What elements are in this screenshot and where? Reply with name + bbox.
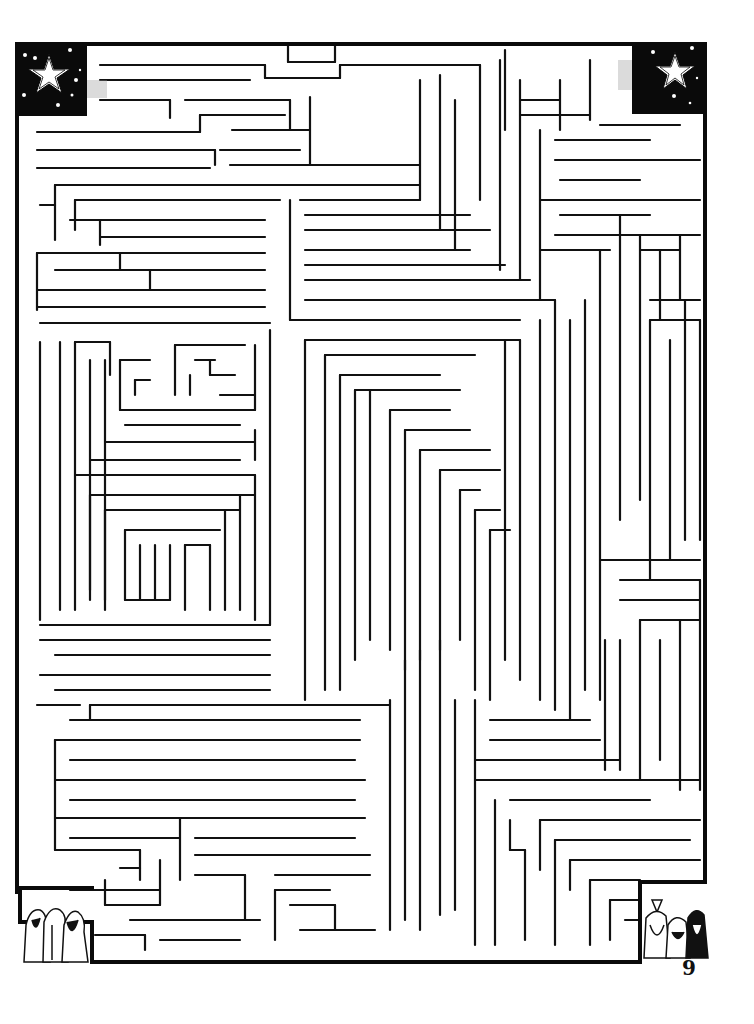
maze	[0, 0, 754, 1024]
maze-walls	[37, 46, 700, 950]
wise-men-left	[24, 909, 88, 962]
star-corner-top-right	[618, 44, 705, 114]
page-number: 9	[682, 958, 696, 978]
maze-border	[17, 44, 705, 962]
star-corner-top-left	[17, 44, 107, 116]
wise-men-right	[644, 900, 708, 958]
